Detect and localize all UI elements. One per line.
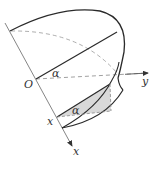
wedge-diagram: O α α x y x bbox=[0, 0, 154, 172]
top-ellipse-arc bbox=[10, 10, 125, 78]
right-edge bbox=[118, 78, 123, 90]
base-semicircle-dashed bbox=[11, 31, 117, 73]
angle-label-top: α bbox=[52, 67, 60, 80]
angle-label-bottom: α bbox=[72, 104, 80, 117]
origin-label: O bbox=[24, 78, 33, 91]
y-axis-label: y bbox=[141, 75, 149, 88]
x-position-label: x bbox=[47, 115, 54, 128]
x-axis-label: x bbox=[73, 145, 80, 158]
radius-line-top bbox=[36, 32, 117, 79]
